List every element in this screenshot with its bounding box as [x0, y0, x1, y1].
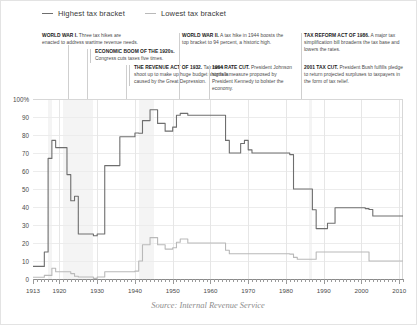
x-axis-minor-tick	[233, 279, 234, 282]
x-axis-minor-tick	[327, 279, 328, 282]
y-axis-tick-label: 30	[3, 222, 29, 229]
annotation-2001-tax-cut: 2001 TAX CUT. President Bush fulfills pl…	[304, 65, 408, 86]
x-axis-minor-tick	[63, 279, 64, 282]
x-axis-minor-tick	[256, 279, 257, 282]
x-axis-major-tick	[248, 279, 249, 284]
x-axis-minor-tick	[384, 279, 385, 282]
x-axis-minor-tick	[105, 279, 106, 282]
annotation-title-world-war-ii: WORLD WAR II.	[182, 33, 219, 38]
x-axis-minor-tick	[112, 279, 113, 282]
series-line-lowest-tax-bracket	[33, 238, 403, 279]
x-axis-major-tick	[324, 279, 325, 284]
legend-swatch-highest-icon	[42, 13, 53, 14]
x-axis-minor-tick	[377, 279, 378, 282]
x-axis-major-tick	[173, 279, 174, 284]
x-axis-minor-tick	[44, 279, 45, 282]
legend-label-lowest: Lowest tax bracket	[161, 9, 226, 18]
annotation-title-2001-tax-cut: 2001 TAX CUT.	[304, 65, 338, 70]
x-axis-minor-tick	[271, 279, 272, 282]
x-axis-tick-label: 1990	[317, 287, 331, 294]
x-axis-minor-tick	[312, 279, 313, 282]
x-axis-minor-tick	[195, 279, 196, 282]
annotation-1964-rate-cut: 1964 RATE CUT. President Johnson signs a…	[212, 65, 296, 93]
x-axis-minor-tick	[146, 279, 147, 282]
annotation-title-revenue-act-1932: THE REVENUE ACT OF 1932.	[134, 65, 202, 70]
x-axis-major-tick	[97, 279, 98, 284]
x-axis-minor-tick	[139, 279, 140, 282]
x-axis-minor-tick	[67, 279, 68, 282]
x-axis-major-tick	[399, 279, 400, 284]
x-axis-major-tick	[361, 279, 362, 284]
plot-area	[33, 99, 403, 279]
legend-swatch-lowest-icon	[145, 13, 156, 14]
legend-item-lowest: Lowest tax bracket	[145, 9, 226, 18]
x-axis-minor-tick	[214, 279, 215, 282]
y-axis-tick-label: 80	[3, 132, 29, 139]
x-axis-minor-tick	[335, 279, 336, 282]
x-axis-tick-label: 1980	[279, 287, 293, 294]
x-axis-minor-tick	[75, 279, 76, 282]
x-axis-minor-tick	[154, 279, 155, 282]
chart-legend: Highest tax bracket Lowest tax bracket	[42, 9, 226, 18]
x-axis-tick-label: 2010	[392, 287, 406, 294]
x-axis-minor-tick	[86, 279, 87, 282]
y-axis-tick-label: 0	[3, 276, 29, 283]
x-axis-minor-tick	[388, 279, 389, 282]
y-axis-tick-label: 100%	[3, 96, 29, 103]
x-axis-minor-tick	[93, 279, 94, 282]
x-axis-minor-tick	[260, 279, 261, 282]
x-axis-tick-label: 1950	[166, 287, 180, 294]
annotation-title-tax-reform-1986: TAX REFORM ACT OF 1986.	[304, 33, 369, 38]
x-axis-minor-tick	[392, 279, 393, 282]
y-axis-tick-label: 40	[3, 204, 29, 211]
y-axis-tick-label: 20	[3, 240, 29, 247]
x-axis-minor-tick	[241, 279, 242, 282]
x-axis-tick-label: 2000	[355, 287, 369, 294]
x-axis-minor-tick	[161, 279, 162, 282]
annotation-economic-boom: ECONOMIC BOOM OF THE 1920s. Congress cut…	[90, 49, 191, 63]
x-axis-minor-tick	[176, 279, 177, 282]
x-axis-minor-tick	[343, 279, 344, 282]
x-axis-minor-tick	[180, 279, 181, 282]
x-axis-tick-label: 1913	[26, 287, 40, 294]
x-axis-minor-tick	[305, 279, 306, 282]
x-axis-minor-tick	[192, 279, 193, 282]
x-axis-minor-tick	[403, 279, 404, 282]
x-axis-minor-tick	[320, 279, 321, 282]
annotation-world-war-i: WORLD WAR I. Three tax hikes are enacted…	[42, 33, 138, 47]
x-axis-minor-tick	[78, 279, 79, 282]
x-axis-minor-tick	[369, 279, 370, 282]
x-axis-minor-tick	[56, 279, 57, 282]
x-axis-minor-tick	[131, 279, 132, 282]
x-axis-minor-tick	[207, 279, 208, 282]
x-axis-minor-tick	[309, 279, 310, 282]
x-axis-minor-tick	[267, 279, 268, 282]
leader-line-2001-tax-cut	[301, 65, 302, 99]
x-axis-minor-tick	[71, 279, 72, 282]
x-axis-minor-tick	[346, 279, 347, 282]
leader-line-world-war-i	[68, 45, 69, 99]
x-axis-tick-label: 1940	[128, 287, 142, 294]
x-axis-minor-tick	[350, 279, 351, 282]
x-axis-minor-tick	[252, 279, 253, 282]
annotation-tax-reform-1986: TAX REFORM ACT OF 1986. A major tax simp…	[304, 33, 408, 54]
legend-item-highest: Highest tax bracket	[42, 9, 125, 18]
x-axis-minor-tick	[116, 279, 117, 282]
x-axis-minor-tick	[226, 279, 227, 282]
y-axis-tick-label: 50	[3, 186, 29, 193]
x-axis-minor-tick	[199, 279, 200, 282]
leader-line-economic-boom	[87, 49, 88, 99]
x-axis-minor-tick	[52, 279, 53, 282]
x-axis-minor-tick	[48, 279, 49, 282]
x-axis-minor-tick	[275, 279, 276, 282]
x-axis-major-tick	[135, 279, 136, 284]
x-axis-minor-tick	[297, 279, 298, 282]
x-axis-tick-label: 1930	[90, 287, 104, 294]
x-axis-minor-tick	[380, 279, 381, 282]
annotation-title-economic-boom: ECONOMIC BOOM OF THE 1920s.	[95, 49, 175, 54]
x-axis-minor-tick	[142, 279, 143, 282]
x-axis-tick-label: 1970	[241, 287, 255, 294]
x-axis-minor-tick	[354, 279, 355, 282]
x-axis-minor-tick	[101, 279, 102, 282]
x-axis-minor-tick	[124, 279, 125, 282]
